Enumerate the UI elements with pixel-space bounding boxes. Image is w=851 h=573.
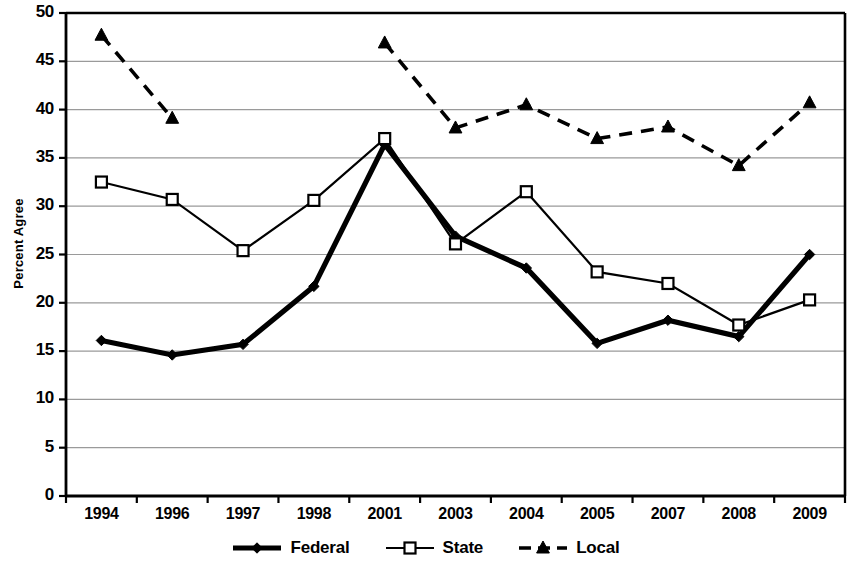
legend-item-state[interactable]: State — [384, 538, 484, 558]
series-local — [95, 28, 816, 170]
data-point-square — [733, 320, 744, 331]
legend-label-local: Local — [576, 538, 619, 558]
data-point-triangle — [166, 111, 179, 123]
data-point-square — [379, 133, 390, 144]
chart-legend: FederalStateLocal — [0, 538, 851, 558]
data-point-triangle — [95, 28, 108, 40]
legend-swatch-federal — [231, 539, 283, 557]
data-point-square — [167, 194, 178, 205]
legend-item-local[interactable]: Local — [517, 538, 619, 558]
data-point-diamond — [96, 335, 106, 345]
data-point-triangle — [378, 36, 391, 48]
data-point-square — [662, 278, 673, 289]
data-point-square — [404, 543, 415, 554]
data-point-square — [308, 195, 319, 206]
data-point-square — [804, 294, 815, 305]
plot-area — [0, 0, 851, 573]
series-line — [101, 35, 172, 118]
legend-label-federal: Federal — [290, 538, 349, 558]
data-point-triangle — [803, 96, 816, 108]
data-point-triangle — [520, 98, 533, 110]
data-point-square — [450, 238, 461, 249]
legend-swatch-state — [384, 539, 436, 557]
legend-label-state: State — [443, 538, 484, 558]
data-point-diamond — [252, 543, 262, 553]
data-point-square — [592, 266, 603, 277]
data-point-square — [238, 245, 249, 256]
line-chart: Percent Agree 05101520253035404550 19941… — [0, 0, 851, 573]
data-point-square — [521, 186, 532, 197]
data-point-square — [96, 177, 107, 188]
legend-item-federal[interactable]: Federal — [231, 538, 349, 558]
legend-swatch-local — [517, 539, 569, 557]
